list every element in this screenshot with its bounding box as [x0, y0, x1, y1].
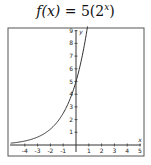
y-tick-label: 2 [69, 116, 73, 123]
y-tick-label: 7 [69, 52, 73, 59]
tick-labels: -4-3-2-112345123456789xy [22, 27, 142, 154]
x-tick-label: -3 [35, 147, 41, 154]
y-tick-label: 6 [69, 65, 73, 72]
y-tick-label: 3 [69, 103, 73, 110]
chart-plot: -4-3-2-112345123456789xy [0, 0, 151, 165]
x-tick-label: 3 [112, 147, 116, 154]
x-tick-label: -4 [22, 147, 28, 154]
axes [10, 30, 141, 152]
y-tick-label: 8 [69, 39, 73, 46]
x-axis-label: x [137, 136, 142, 143]
y-axis-label: y [78, 28, 83, 36]
x-tick-label: 1 [87, 147, 91, 154]
x-tick-label: -2 [47, 147, 53, 154]
x-tick-label: -1 [60, 147, 66, 154]
y-tick-label: 1 [69, 128, 73, 135]
x-tick-label: 5 [138, 147, 142, 154]
x-tick-label: 2 [100, 147, 104, 154]
y-tick-label: 5 [69, 78, 73, 85]
x-tick-label: 4 [125, 147, 129, 154]
y-tick-label: 9 [69, 27, 73, 34]
